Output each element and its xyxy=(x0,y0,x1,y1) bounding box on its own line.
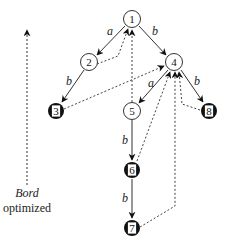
svg-text:2: 2 xyxy=(86,56,92,68)
node-5: 5 xyxy=(124,103,141,120)
svg-text:1: 1 xyxy=(129,13,135,25)
diagram-canvas: a b b a b b b 1 2 4 5 3 xyxy=(0,0,233,238)
edge-label-4-8: b xyxy=(194,74,200,88)
edge-label-6-7: b xyxy=(122,191,128,205)
svg-text:5: 5 xyxy=(129,105,135,117)
node-3: 3 xyxy=(48,103,64,119)
legend-line-bord: Bord xyxy=(0,186,57,201)
svg-text:3: 3 xyxy=(53,105,59,117)
edge-label-5-6: b xyxy=(122,133,128,147)
legend-line-optimized: optimized xyxy=(0,201,57,216)
svg-text:4: 4 xyxy=(171,56,177,68)
node-8: 8 xyxy=(201,103,217,119)
edge-label-2-3: b xyxy=(66,74,72,88)
svg-text:6: 6 xyxy=(129,164,135,176)
node-6: 6 xyxy=(124,162,140,178)
node-4: 4 xyxy=(166,54,183,71)
solid-edges xyxy=(62,26,203,218)
node-7: 7 xyxy=(124,220,140,236)
edge-label-4-5: a xyxy=(148,76,154,90)
edge-label-1-2: a xyxy=(107,24,113,38)
node-1: 1 xyxy=(124,11,141,28)
svg-text:8: 8 xyxy=(206,105,212,117)
svg-text:7: 7 xyxy=(129,222,135,234)
node-2: 2 xyxy=(81,54,98,71)
edge-label-1-4: b xyxy=(152,24,158,38)
